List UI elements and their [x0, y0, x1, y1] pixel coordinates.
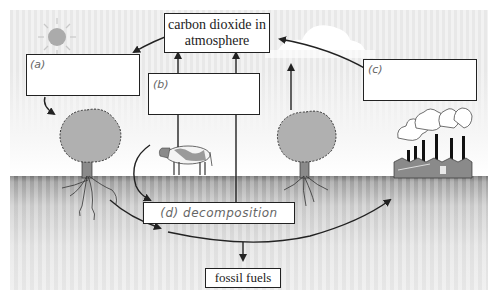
node-d-decomposition: (d) decomposition	[143, 202, 295, 224]
node-b-label: (b)	[153, 78, 169, 91]
node-a-label: (a)	[30, 58, 45, 71]
atmosphere-label-line1: carbon dioxide in	[165, 17, 269, 33]
node-d-label: (d) decomposition	[160, 206, 277, 220]
node-b-answer-box[interactable]: (b)	[148, 73, 260, 115]
cow	[159, 146, 212, 175]
atmosphere-label-line2: atmosphere	[165, 33, 269, 49]
sun-icon	[38, 18, 76, 56]
fossil-fuels-label: fossil fuels	[215, 270, 272, 285]
node-c-label: (c)	[368, 63, 383, 76]
roots-left	[62, 176, 117, 220]
tree-left	[60, 109, 121, 220]
node-c-answer-box[interactable]: (c)	[363, 59, 477, 101]
factory	[394, 108, 472, 178]
arrow-a-to-tree	[44, 97, 54, 114]
node-atmosphere: carbon dioxide in atmosphere	[164, 13, 270, 53]
node-fossil-fuels: fossil fuels	[205, 268, 281, 288]
carbon-cycle-diagram: carbon dioxide in atmosphere (a) (b) (c)…	[10, 10, 488, 290]
node-a-answer-box[interactable]: (a)	[26, 54, 140, 96]
cloud-icon	[278, 25, 365, 50]
arrow-cow-to-decomposition	[134, 145, 150, 200]
tree-right	[277, 111, 336, 206]
